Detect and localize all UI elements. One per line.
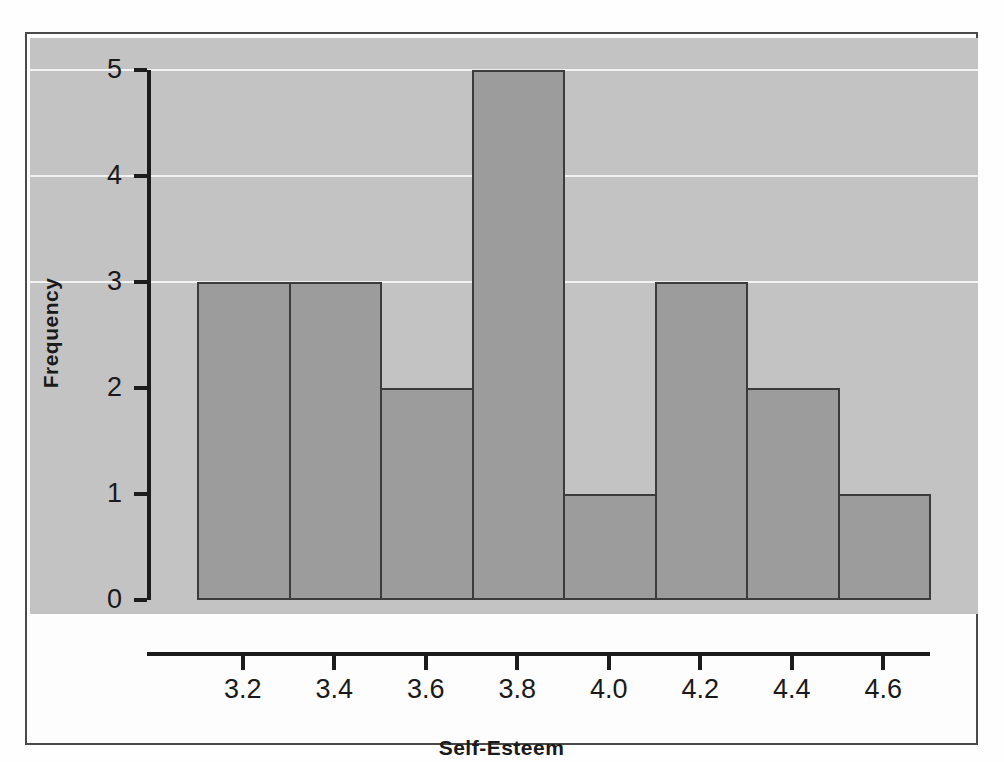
y-axis-title: Frequency <box>39 273 63 393</box>
x-tick-label: 3.6 <box>381 676 471 703</box>
x-tick-label: 4.2 <box>655 676 745 703</box>
y-tick-label: 0 <box>77 586 122 613</box>
y-tick-label: 1 <box>77 480 122 507</box>
x-tick-4.0 <box>607 656 611 670</box>
y-tick-2 <box>134 386 147 390</box>
bar <box>563 494 657 600</box>
y-tick-5 <box>134 68 147 72</box>
bar <box>655 282 749 600</box>
bar <box>289 282 383 600</box>
x-tick-label: 4.0 <box>564 676 654 703</box>
bar <box>838 494 932 600</box>
y-tick-label: 3 <box>77 268 122 295</box>
x-tick-3.2 <box>241 656 245 670</box>
x-axis-line <box>147 652 930 656</box>
x-tick-4.6 <box>881 656 885 670</box>
histogram-figure: 012345 Frequency 3.23.43.63.84.04.24.44.… <box>0 0 1004 762</box>
y-tick-label: 2 <box>77 374 122 401</box>
y-tick-label: 5 <box>77 56 122 83</box>
y-tick-4 <box>134 174 147 178</box>
x-tick-3.8 <box>515 656 519 670</box>
bar <box>746 388 840 600</box>
bar <box>472 70 566 600</box>
x-tick-3.4 <box>332 656 336 670</box>
x-tick-label: 3.2 <box>198 676 288 703</box>
y-tick-0 <box>134 598 147 602</box>
chart-frame: 012345 Frequency 3.23.43.63.84.04.24.44.… <box>25 32 978 745</box>
bar <box>380 388 474 600</box>
y-tick-label: 4 <box>77 162 122 189</box>
x-tick-4.4 <box>790 656 794 670</box>
y-tick-3 <box>134 280 147 284</box>
x-axis-title: Self-Esteem <box>27 736 976 760</box>
y-axis-line <box>147 70 151 600</box>
x-tick-label: 3.8 <box>472 676 562 703</box>
bars-layer <box>30 38 978 614</box>
y-tick-1 <box>134 492 147 496</box>
x-tick-3.6 <box>424 656 428 670</box>
x-tick-label: 3.4 <box>289 676 379 703</box>
plot-panel <box>30 38 978 614</box>
x-tick-label: 4.6 <box>838 676 928 703</box>
bar <box>197 282 291 600</box>
x-tick-4.2 <box>698 656 702 670</box>
x-tick-label: 4.4 <box>747 676 837 703</box>
